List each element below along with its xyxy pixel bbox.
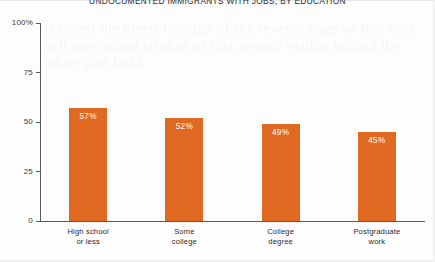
y-tick-50 (36, 122, 40, 123)
y-tick-label-25: 25 (0, 167, 33, 176)
y-tick-label-75: 75 (0, 68, 33, 77)
category-label-line: Postgraduate (329, 227, 425, 237)
x-axis-line (40, 221, 425, 222)
bar: 49% (262, 124, 300, 221)
category-label: High schoolor less (40, 227, 136, 246)
category-label-line: or less (40, 237, 136, 247)
bar-value-label: 57% (69, 112, 107, 121)
category-label: Somecollege (136, 227, 232, 246)
category-label: Postgraduatework (329, 227, 425, 246)
category-label-line: Some (136, 227, 232, 237)
bar-value-label: 45% (358, 136, 396, 145)
bar-chart: ts tinted the bleed-through of the rever… (0, 0, 435, 262)
y-tick-label-100: 100% (0, 18, 33, 27)
bar-value-label: 49% (262, 128, 300, 137)
category-label-line: work (329, 237, 425, 247)
bar-value-label: 52% (165, 122, 203, 131)
category-label-line: degree (233, 237, 329, 247)
category-label-line: High school (40, 227, 136, 237)
y-axis-line (40, 23, 41, 221)
y-tick-75 (36, 72, 40, 73)
bar: 57% (69, 108, 107, 221)
y-tick-100 (36, 23, 40, 24)
bar: 45% (358, 132, 396, 221)
chart-title: UNDOCUMENTED IMMIGRANTS WITH JOBS, BY ED… (0, 0, 435, 6)
category-label-line: college (136, 237, 232, 247)
y-tick-25 (36, 171, 40, 172)
category-label: Collegedegree (233, 227, 329, 246)
category-label-line: College (233, 227, 329, 237)
y-tick-label-0: 0 (0, 216, 33, 225)
y-tick-label-50: 50 (0, 117, 33, 126)
plot-area: 57%52%49%45% (40, 23, 425, 221)
y-tick-0 (36, 221, 40, 222)
bar: 52% (165, 118, 203, 221)
